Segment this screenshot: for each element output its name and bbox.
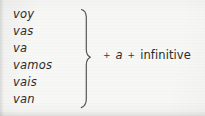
plus-sign-first: + <box>98 50 116 60</box>
conjugation-list: voy vas va vamos vais van <box>13 6 75 108</box>
conjugation-item-vamos: vamos <box>13 57 75 74</box>
conjugation-item-va: va <box>13 40 75 57</box>
left-edge-shadow <box>0 0 4 116</box>
right-curly-brace-icon <box>79 8 95 109</box>
conjugation-item-vas: vas <box>13 23 75 40</box>
infinitive-label: infinitive <box>140 48 191 62</box>
bottom-edge-shadow <box>0 111 205 116</box>
conjugation-item-van: van <box>13 91 75 108</box>
formula-expression: + a + infinitive <box>98 48 191 62</box>
preposition-a: a <box>116 48 123 62</box>
figure-canvas: voy vas va vamos vais van + a + infiniti… <box>0 0 205 116</box>
conjugation-item-vais: vais <box>13 74 75 91</box>
plus-sign-second: + <box>123 50 141 60</box>
conjugation-item-voy: voy <box>13 6 75 23</box>
